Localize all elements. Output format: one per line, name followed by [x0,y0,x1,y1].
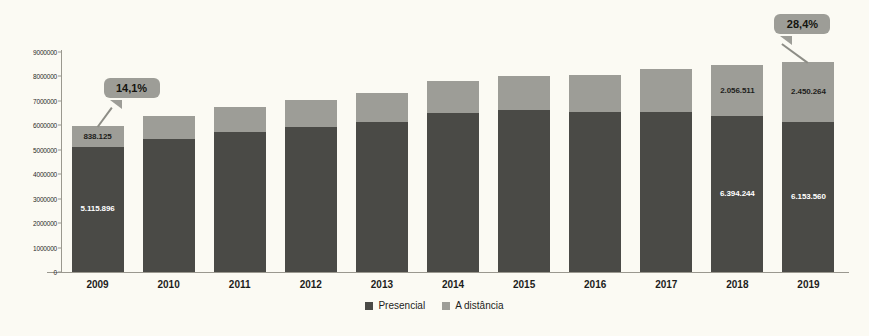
bar-segment-distancia[interactable] [640,69,692,112]
bar-segment-distancia[interactable] [498,76,550,110]
y-tick-label: 5000000 [33,146,57,153]
x-axis-label: 2010 [133,279,205,290]
bar-group[interactable] [356,93,408,272]
y-tick-label: 4000000 [33,171,57,178]
x-axis-label: 2018 [701,279,773,290]
bar-value-label: 2.056.511 [711,86,763,95]
bar-segment-presencial[interactable]: 6.153.560 [782,122,834,272]
y-tick-mark [58,52,61,53]
bar-group[interactable] [640,69,692,272]
legend-swatch-icon [442,302,450,310]
bar-value-label: 2.450.264 [782,87,834,96]
bar-group[interactable] [143,116,195,272]
x-axis-label: 2016 [559,279,631,290]
y-tick-mark [58,125,61,126]
legend-label: A distância [455,300,503,311]
bar-series-container: 838.1255.115.8962.056.5116.394.2442.450.… [62,52,844,272]
bar-segment-distancia[interactable] [214,107,266,131]
bar-group[interactable]: 838.1255.115.896 [72,126,124,272]
bar-segment-distancia[interactable] [569,75,621,112]
bar-segment-distancia[interactable] [427,81,479,114]
bar-segment-presencial[interactable] [427,113,479,272]
bar-group[interactable] [285,100,337,272]
bar-segment-presencial[interactable] [356,122,408,272]
bar-group[interactable]: 2.450.2646.153.560 [782,62,834,272]
bar-value-label: 838.125 [72,132,124,141]
y-tick-mark [58,100,61,101]
y-tick-label: 0 [54,269,57,276]
bar-value-label: 6.394.244 [711,189,763,198]
bar-group[interactable] [498,76,550,272]
x-axis-label: 2012 [275,279,347,290]
bar-segment-distancia[interactable]: 838.125 [72,126,124,146]
bar-value-label: 5.115.896 [72,204,124,213]
bar-value-label: 6.153.560 [782,192,834,201]
x-axis-label: 2017 [630,279,702,290]
y-tick-mark [58,223,61,224]
bar-segment-distancia[interactable] [285,100,337,127]
bar-segment-presencial[interactable] [498,110,550,272]
x-axis-label: 2011 [204,279,276,290]
x-axis-label: 2015 [488,279,560,290]
y-tick-mark [58,272,61,273]
chart-legend: PresencialA distância [0,300,869,311]
bar-group[interactable] [214,107,266,272]
bar-segment-presencial[interactable] [143,139,195,272]
stacked-bar-chart: 0100000020000003000000400000050000006000… [0,0,869,336]
y-tick-mark [58,198,61,199]
x-axis-label: 2013 [346,279,418,290]
legend-item[interactable]: A distância [442,300,503,311]
bar-segment-presencial[interactable] [569,112,621,272]
y-tick-label: 1000000 [33,244,57,251]
y-tick-label: 6000000 [33,122,57,129]
percentage-callout: 28,4% [774,14,830,34]
legend-item[interactable]: Presencial [365,300,425,311]
x-axis-label: 2014 [417,279,489,290]
y-tick-mark [58,174,61,175]
bar-segment-presencial[interactable] [285,127,337,272]
y-tick-label: 3000000 [33,195,57,202]
x-axis-line [47,272,849,273]
bar-segment-presencial[interactable]: 5.115.896 [72,147,124,272]
bar-group[interactable]: 2.056.5116.394.244 [711,65,763,272]
y-tick-mark [58,149,61,150]
bar-group[interactable] [427,81,479,272]
bar-segment-presencial[interactable] [640,112,692,272]
legend-swatch-icon [365,302,373,310]
bar-segment-distancia[interactable] [143,116,195,139]
bar-group[interactable] [569,75,621,272]
y-tick-label: 8000000 [33,73,57,80]
bar-segment-distancia[interactable]: 2.450.264 [782,62,834,122]
x-axis-label: 2019 [772,279,844,290]
y-tick-label: 2000000 [33,220,57,227]
y-tick-label: 7000000 [33,97,57,104]
plot-area: 0100000020000003000000400000050000006000… [62,52,844,272]
y-tick-label: 9000000 [33,49,57,56]
x-axis-label: 2009 [62,279,134,290]
bar-segment-presencial[interactable]: 6.394.244 [711,116,763,272]
bar-segment-presencial[interactable] [214,132,266,272]
bar-segment-distancia[interactable]: 2.056.511 [711,65,763,115]
bar-segment-distancia[interactable] [356,93,408,121]
percentage-callout: 14,1% [104,78,160,98]
legend-label: Presencial [378,300,425,311]
y-tick-mark [58,76,61,77]
y-tick-mark [58,247,61,248]
